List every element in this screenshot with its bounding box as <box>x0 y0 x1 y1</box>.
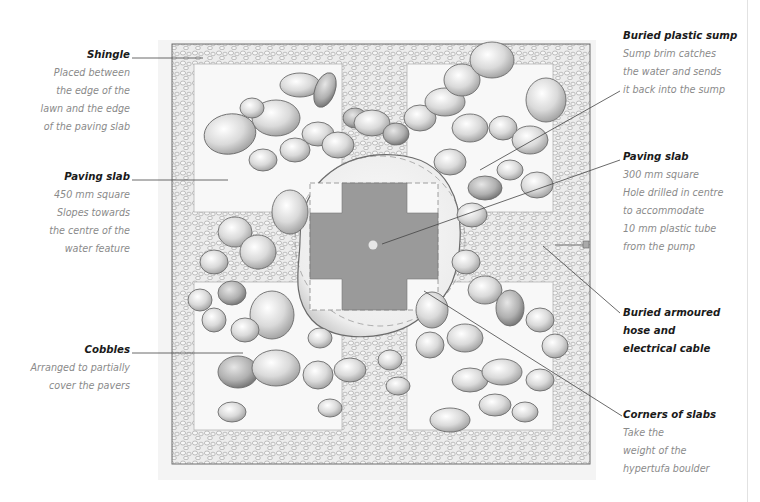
label-line: Arranged to partially <box>31 359 130 377</box>
drilled-hole <box>369 241 378 250</box>
label-cobbles: Cobbles Arranged to partially cover the … <box>31 341 130 395</box>
label-title-line: Buried armoured <box>623 304 720 322</box>
label-armoured-hose: Buried armoured hose and electrical cabl… <box>623 304 720 358</box>
label-line: to accommodate <box>623 202 723 220</box>
label-line: Take the <box>623 424 716 442</box>
label-line: of the paving slab <box>41 118 130 136</box>
label-line: it back into the sump <box>623 81 737 99</box>
label-shingle: Shingle Placed between the edge of the l… <box>41 46 130 136</box>
label-line: Sump brim catches <box>623 45 737 63</box>
paving-slab-300-centre <box>310 183 438 310</box>
label-corners-of-slabs: Corners of slabs Take the weight of the … <box>623 406 716 478</box>
label-line: the centre of the <box>49 222 130 240</box>
label-line: hypertufa boulder <box>623 460 716 478</box>
label-line: weight of the <box>623 442 716 460</box>
label-paving-slab-450: Paving slab 450 mm square Slopes towards… <box>49 168 130 258</box>
label-title-line: electrical cable <box>623 340 720 358</box>
label-title: Paving slab <box>623 148 723 166</box>
label-buried-sump: Buried plastic sump Sump brim catches th… <box>623 27 737 99</box>
label-line: Placed between <box>41 64 130 82</box>
label-title: Shingle <box>41 46 130 64</box>
label-line: 300 mm square <box>623 166 723 184</box>
label-title: Corners of slabs <box>623 406 716 424</box>
label-title: Cobbles <box>31 341 130 359</box>
label-line: cover the pavers <box>31 377 130 395</box>
label-line: Hole drilled in centre <box>623 184 723 202</box>
label-line: 10 mm plastic tube <box>623 220 723 238</box>
label-line: lawn and the edge <box>41 100 130 118</box>
label-line: the edge of the <box>41 82 130 100</box>
label-line: the water and sends <box>623 63 737 81</box>
label-line: Slopes towards <box>49 204 130 222</box>
label-title-line: hose and <box>623 322 720 340</box>
label-paving-slab-300: Paving slab 300 mm square Hole drilled i… <box>623 148 723 256</box>
label-title: Paving slab <box>49 168 130 186</box>
label-line: 450 mm square <box>49 186 130 204</box>
label-line: from the pump <box>623 238 723 256</box>
label-line: water feature <box>49 240 130 258</box>
label-title: Buried plastic sump <box>623 27 737 45</box>
